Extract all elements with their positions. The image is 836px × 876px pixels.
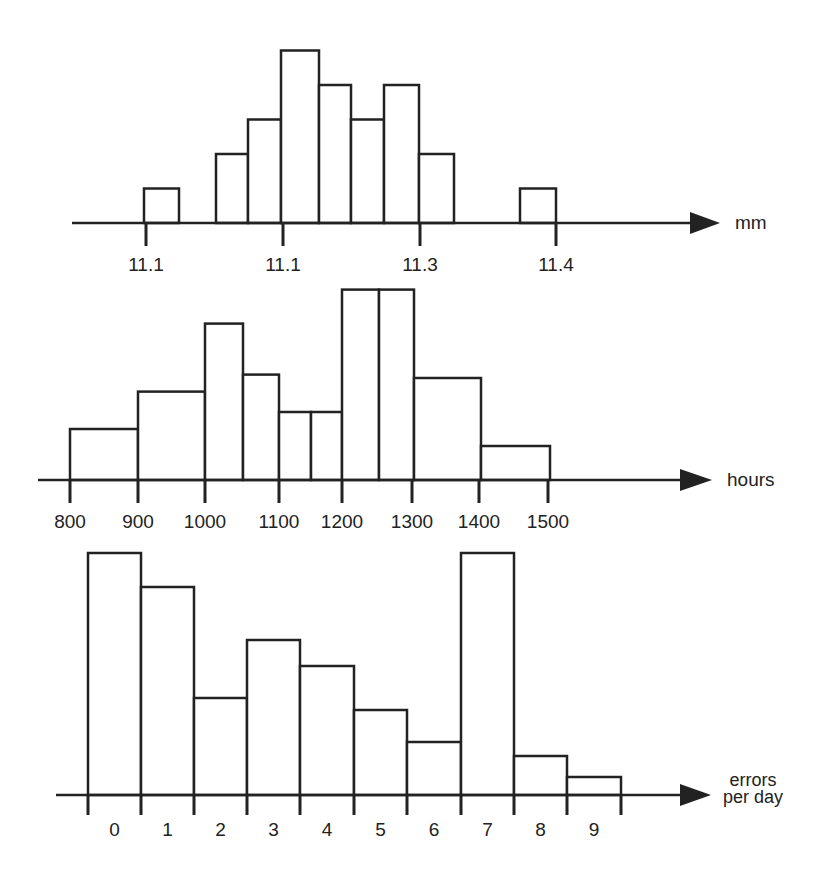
histogram-figure: 11.111.111.311.4mm 800900100011001200130…: [0, 0, 836, 876]
tick-label: 6: [429, 819, 440, 840]
histogram-bar: [567, 777, 621, 795]
histogram-bar: [248, 120, 281, 224]
histogram-bar: [300, 666, 354, 795]
tick-label: 7: [482, 819, 493, 840]
tick-label: 11.1: [128, 254, 164, 275]
histogram-mm: 11.111.111.311.4mm: [72, 51, 767, 276]
histogram-errors-per-day: 0123456789errorsper day: [56, 553, 783, 840]
tick-label: 1500: [527, 511, 569, 532]
histogram-bar: [414, 378, 481, 480]
histogram-bar: [319, 85, 351, 223]
histogram-bar: [419, 154, 454, 223]
tick-label: 1400: [458, 511, 500, 532]
tick-label: 5: [375, 819, 386, 840]
histogram-bar: [520, 189, 556, 224]
axis-label: hours: [727, 469, 775, 490]
histogram-bar: [281, 51, 319, 224]
axis-label: per day: [723, 787, 783, 807]
histogram-bar: [407, 742, 461, 795]
histogram-bar: [247, 640, 300, 795]
histogram-hours: 800900100011001200130014001500hours: [38, 290, 775, 532]
tick-label: 9: [589, 819, 600, 840]
histogram-bar: [216, 154, 248, 223]
axis-arrow-icon: [680, 784, 711, 806]
tick-label: 0: [109, 819, 120, 840]
histogram-bar: [88, 553, 141, 795]
histogram-bar: [342, 290, 379, 480]
histogram-bar: [243, 375, 279, 480]
tick-label: 1100: [259, 511, 300, 532]
histogram-bar: [351, 120, 384, 224]
histogram-bar: [481, 446, 550, 480]
tick-label: 1000: [184, 511, 226, 532]
tick-label: 1200: [321, 511, 363, 532]
tick-label: 11.3: [402, 254, 438, 275]
tick-label: 11.4: [538, 254, 574, 275]
histogram-bar: [384, 85, 419, 223]
histogram-bar: [141, 587, 194, 795]
tick-label: 1: [162, 819, 173, 840]
histogram-bar: [144, 189, 179, 224]
histogram-bar: [279, 412, 311, 480]
tick-label: 3: [268, 819, 279, 840]
tick-label: 1300: [391, 511, 433, 532]
histogram-bar: [354, 710, 407, 795]
histogram-bar: [461, 553, 514, 795]
histogram-bar: [70, 429, 138, 480]
tick-label: 900: [122, 511, 154, 532]
tick-label: 11.1: [265, 254, 301, 275]
tick-label: 8: [535, 819, 546, 840]
tick-label: 2: [215, 819, 226, 840]
histogram-bar: [194, 698, 247, 795]
histogram-bar: [514, 756, 567, 795]
histogram-bar: [379, 290, 414, 480]
axis-label: mm: [735, 212, 767, 233]
axis-arrow-icon: [690, 212, 720, 234]
histogram-bar: [205, 324, 243, 480]
axis-arrow-icon: [680, 469, 712, 491]
histogram-bar: [138, 392, 205, 480]
tick-label: 4: [322, 819, 333, 840]
histograms-svg: 11.111.111.311.4mm 800900100011001200130…: [0, 0, 836, 876]
tick-label: 800: [54, 511, 86, 532]
histogram-bar: [311, 412, 342, 480]
